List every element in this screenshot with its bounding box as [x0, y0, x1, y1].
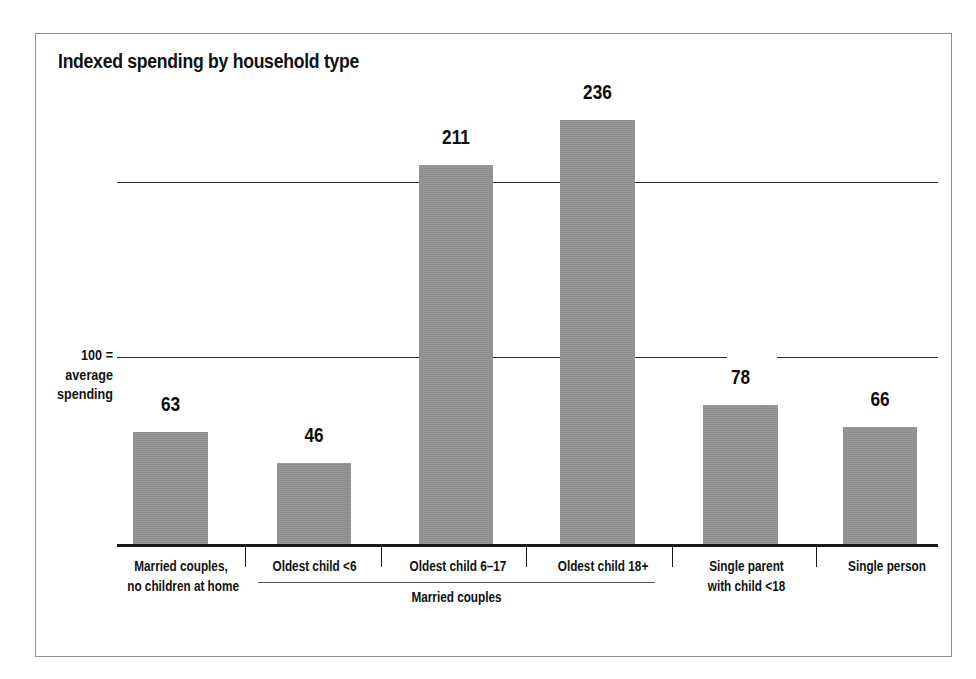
- bar-value-label: 46: [284, 423, 345, 447]
- bar-value-label: 236: [567, 80, 629, 104]
- bar: [560, 120, 635, 546]
- reference-note-line: average: [18, 365, 113, 385]
- category-label: Married couples,no children at home: [127, 556, 235, 596]
- bar: [703, 405, 778, 546]
- reference-line-note: 100 =averagespending: [0, 345, 113, 404]
- category-label-line: Oldest child 6–17: [399, 556, 517, 576]
- bar-value-label: 66: [850, 387, 911, 411]
- bar-value-label: 78: [710, 365, 772, 389]
- figure-root: Indexed spending by household type 63462…: [0, 0, 976, 679]
- gridline-200-b: [777, 357, 938, 358]
- group-bracket-label: Married couples: [290, 589, 623, 605]
- reference-note-line: spending: [18, 384, 113, 404]
- category-label: Oldest child <6: [258, 556, 371, 576]
- axis-tick: [672, 547, 673, 567]
- axis-tick: [816, 547, 817, 567]
- bar: [277, 463, 351, 546]
- category-label-line: no children at home: [127, 576, 235, 596]
- bar-value-label: 211: [426, 125, 487, 149]
- chart-title: Indexed spending by household type: [58, 50, 359, 73]
- category-label: Single parentwith child <18: [689, 556, 804, 596]
- category-label-line: Single person: [832, 556, 941, 576]
- category-label: Oldest child 18+: [544, 556, 662, 576]
- bar: [419, 165, 493, 546]
- gridline-100: [117, 182, 938, 183]
- category-label-line: Married couples,: [127, 556, 235, 576]
- group-bracket-line: [258, 582, 655, 583]
- category-label-line: Oldest child 18+: [544, 556, 662, 576]
- category-label: Oldest child 6–17: [399, 556, 517, 576]
- bar: [843, 427, 917, 546]
- category-label-line: with child <18: [689, 576, 804, 596]
- axis-tick: [381, 547, 382, 567]
- axis-baseline: [117, 544, 938, 547]
- axis-tick: [245, 547, 246, 567]
- bar: [133, 432, 208, 546]
- category-label-line: Oldest child <6: [258, 556, 371, 576]
- category-label-line: Single parent: [689, 556, 804, 576]
- axis-tick: [526, 547, 527, 567]
- category-label: Single person: [832, 556, 941, 576]
- bar-value-label: 63: [140, 392, 202, 416]
- reference-note-line: 100 =: [18, 345, 113, 365]
